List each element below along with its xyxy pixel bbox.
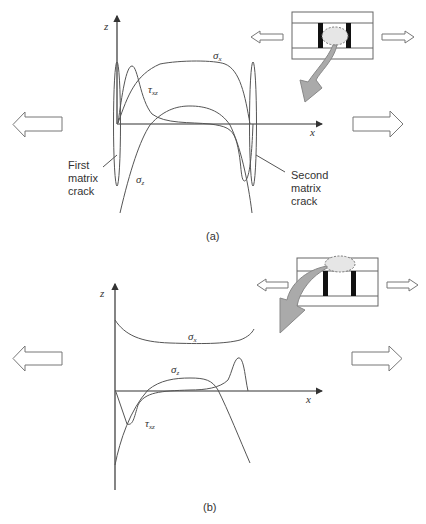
inset-left-arrow xyxy=(251,31,283,43)
sigma-x-curve xyxy=(118,61,250,124)
inset-laminate-b xyxy=(257,256,418,333)
caption-b: (b) xyxy=(203,501,216,513)
highlight-region xyxy=(325,256,355,272)
inset-laminate-a xyxy=(251,12,414,102)
first-crack-leader xyxy=(103,155,117,167)
x-axis-label: x xyxy=(305,393,311,405)
left-load-arrow xyxy=(13,346,62,371)
inset-left-arrow xyxy=(257,279,288,291)
stress-distribution-diagram: z x σx τxz σz First matrix crack Second … xyxy=(0,0,426,524)
right-load-arrow xyxy=(352,346,402,371)
sigma-x-label: σx xyxy=(213,49,222,63)
crack-right xyxy=(351,271,356,296)
panel-b: z x σx σz τxz (b) xyxy=(13,256,418,513)
second-crack-leader xyxy=(256,155,285,172)
highlight-region xyxy=(322,27,348,45)
x-axis-label: x xyxy=(309,126,315,138)
z-axis-label: z xyxy=(99,287,105,299)
tau-xz-label: τxz xyxy=(145,417,155,431)
inset-right-arrow xyxy=(387,279,418,291)
sigma-x-label: σx xyxy=(188,330,197,344)
caption-a: (a) xyxy=(206,230,219,242)
tau-xz-label: τxz xyxy=(148,83,158,97)
second-crack-label: Second matrix crack xyxy=(291,169,331,207)
panel-a: z x σx τxz σz First matrix crack Second … xyxy=(13,12,414,242)
crack-left xyxy=(323,271,328,296)
sigma-z-label: σz xyxy=(136,173,144,187)
right-load-arrow xyxy=(353,111,403,137)
inset-right-arrow xyxy=(382,31,414,43)
sigma-x-curve xyxy=(115,320,254,344)
left-load-arrow xyxy=(13,112,62,137)
z-axis-label: z xyxy=(103,20,109,32)
sigma-z-label: σz xyxy=(171,363,179,377)
first-crack-label: First matrix crack xyxy=(68,159,101,197)
